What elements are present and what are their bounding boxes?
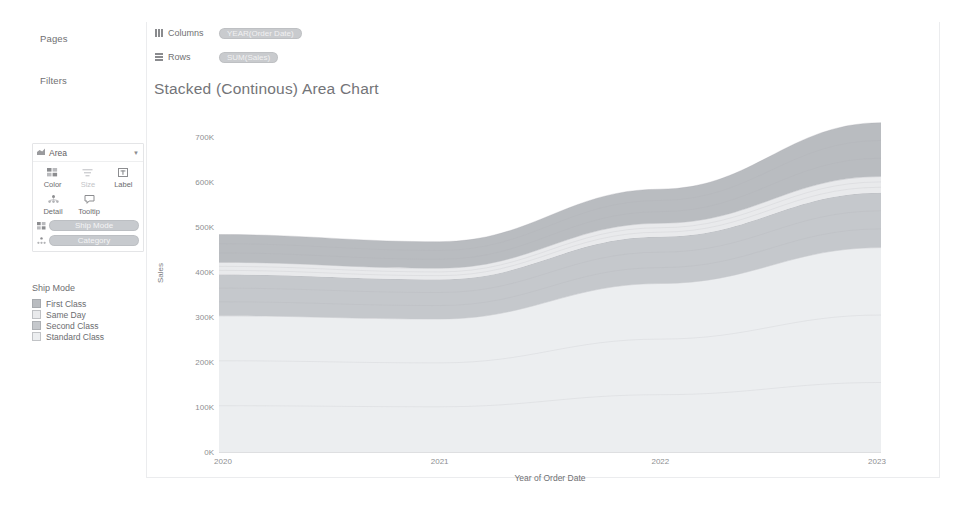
size-button[interactable]: Size <box>70 167 105 189</box>
filters-shelf-label: Filters <box>40 75 67 86</box>
tooltip-button-label: Tooltip <box>78 208 100 216</box>
label-icon <box>117 167 130 178</box>
size-button-label: Size <box>81 181 96 189</box>
mark-buttons-row-2: Detail Tooltip <box>33 192 143 219</box>
color-button-label: Color <box>44 181 62 189</box>
x-tick-label: 2022 <box>651 457 669 466</box>
legend-swatch-standard-class <box>32 332 41 341</box>
y-tick-label: 700K <box>195 133 214 142</box>
mark-type-selector[interactable]: Area ▼ <box>33 144 143 162</box>
tooltip-button[interactable]: Tooltip <box>71 194 107 216</box>
sidebar: Pages Filters Marks Area ▼ C <box>0 0 146 517</box>
marks-pill-category[interactable]: Category <box>49 235 139 246</box>
columns-shelf-label: Columns <box>168 28 214 38</box>
color-icon <box>36 221 46 230</box>
marks-pill-ship-mode[interactable]: Ship Mode <box>49 220 139 231</box>
mark-type-value: Area <box>49 148 129 158</box>
legend-title: Ship Mode <box>32 283 144 293</box>
pill-year-order-date[interactable]: YEAR(Order Date) <box>219 28 302 39</box>
x-tick-label: 2021 <box>431 457 449 466</box>
worksheet-panel: Columns YEAR(Order Date) Rows SUM(Sales)… <box>146 0 955 517</box>
plot-area <box>219 115 881 452</box>
chevron-down-icon[interactable]: ▼ <box>133 150 139 156</box>
legend-label-standard-class: Standard Class <box>46 332 104 342</box>
marks-pill-row-color: Ship Mode <box>33 218 143 233</box>
rows-shelf-slot[interactable]: SUM(Sales) <box>219 52 278 63</box>
label-button[interactable]: Label <box>106 167 141 189</box>
legend-label-first-class: First Class <box>46 299 86 309</box>
detail-button-label: Detail <box>43 208 62 216</box>
y-tick-label: 500K <box>195 223 214 232</box>
legend-item-first-class[interactable]: First Class <box>32 298 144 309</box>
rows-shelf[interactable]: Rows SUM(Sales) <box>154 50 278 64</box>
color-legend: Ship Mode First Class Same Day Second Cl… <box>32 283 144 342</box>
x-axis-line <box>219 452 881 453</box>
tooltip-icon <box>83 194 96 205</box>
y-tick-label: 200K <box>195 358 214 367</box>
x-tick-label: 2020 <box>214 457 232 466</box>
pill-sum-sales[interactable]: SUM(Sales) <box>219 52 278 63</box>
y-axis-ticks: 0K100K200K300K400K500K600K700K <box>146 115 214 452</box>
rows-shelf-label: Rows <box>168 52 214 62</box>
y-tick-label: 400K <box>195 268 214 277</box>
x-axis-title: Year of Order Date <box>219 473 881 483</box>
rows-shelf-icon <box>154 53 163 62</box>
marks-card: Area ▼ Color <box>32 143 144 252</box>
color-button[interactable]: Color <box>35 167 70 189</box>
x-tick-label: 2023 <box>868 457 886 466</box>
size-icon <box>81 167 94 178</box>
legend-item-second-class[interactable]: Second Class <box>32 320 144 331</box>
color-icon <box>46 167 59 178</box>
legend-label-second-class: Second Class <box>46 321 98 331</box>
y-tick-label: 100K <box>195 403 214 412</box>
legend-swatch-same-day <box>32 310 41 319</box>
detail-icon <box>47 194 60 205</box>
columns-shelf-icon <box>154 29 163 38</box>
legend-swatch-second-class <box>32 321 41 330</box>
label-button-label: Label <box>114 181 132 189</box>
legend-item-same-day[interactable]: Same Day <box>32 309 144 320</box>
columns-shelf[interactable]: Columns YEAR(Order Date) <box>154 26 302 40</box>
legend-swatch-first-class <box>32 299 41 308</box>
area-mark-icon <box>37 148 45 157</box>
y-tick-label: 600K <box>195 178 214 187</box>
pages-shelf-label: Pages <box>40 33 68 44</box>
detail-icon <box>36 236 46 245</box>
legend-label-same-day: Same Day <box>46 310 86 320</box>
plot-surface <box>219 115 881 452</box>
legend-item-standard-class[interactable]: Standard Class <box>32 331 144 342</box>
mark-buttons-row-1: Color Size <box>33 162 143 192</box>
y-tick-label: 300K <box>195 313 214 322</box>
page-title: Stacked (Continous) Area Chart <box>154 80 379 98</box>
y-tick-label: 0K <box>204 448 214 457</box>
columns-shelf-slot[interactable]: YEAR(Order Date) <box>219 28 302 39</box>
marks-pill-row-detail: Category <box>33 233 143 251</box>
area-chart: Sales 0K100K200K300K400K500K600K700K Yea… <box>146 105 940 477</box>
detail-button[interactable]: Detail <box>35 194 71 216</box>
stacked-area-svg <box>219 115 881 452</box>
